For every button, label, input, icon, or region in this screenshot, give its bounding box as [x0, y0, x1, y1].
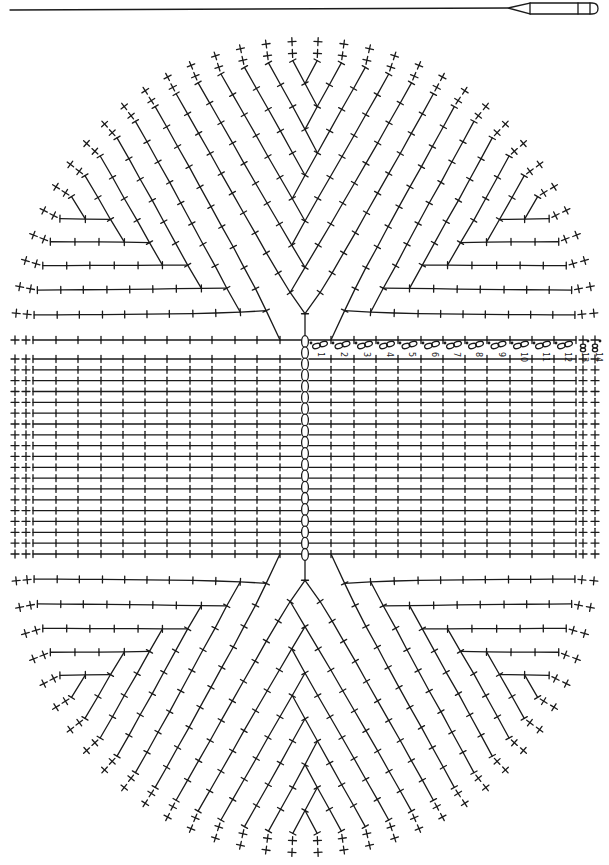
sc-stitch-stroke	[593, 577, 594, 585]
slip-stitch-dot	[444, 342, 447, 345]
hdc-stitch-post	[305, 765, 317, 788]
hdc-stitch-post	[268, 809, 280, 831]
hdc-stitch-post	[210, 720, 221, 740]
hdc-stitch-post	[255, 233, 266, 253]
hdc-stitch-post	[422, 94, 433, 114]
chain-stitch-oval	[592, 344, 597, 348]
round-marker-8: 8	[466, 340, 484, 357]
chain-stitch-oval	[302, 437, 309, 449]
round-number-label: 14	[594, 352, 603, 362]
hdc-stitch-post	[72, 197, 86, 220]
fan-round-13	[22, 49, 587, 344]
chain-stitch-oval	[302, 481, 309, 493]
chain-stitch-oval	[302, 392, 309, 404]
hdc-stitch-post	[330, 763, 342, 785]
round-marker-5: 5	[399, 340, 418, 357]
hdc-stitch-post	[443, 767, 454, 787]
hdc-stitch-post	[158, 712, 170, 733]
round-marker-3: 3	[355, 340, 373, 357]
hdc-stitch-post	[203, 244, 215, 266]
chain-stitch-oval	[319, 340, 328, 347]
hdc-stitch-post	[378, 123, 389, 143]
hdc-stitch-post	[446, 200, 458, 221]
hdc-stitch-post	[486, 177, 498, 198]
hdc-stitch-post	[345, 289, 356, 311]
round-marker-9: 9	[488, 340, 507, 357]
hdc-stitch-post	[432, 127, 443, 147]
hdc-stitch-post	[399, 687, 410, 707]
hdc-stitch-post	[318, 696, 330, 717]
hdc-stitch-post	[293, 810, 305, 833]
sc-stitch-stroke	[537, 726, 542, 732]
hdc-stitch-post	[500, 675, 513, 697]
sc-stitch-stroke	[237, 48, 245, 50]
hdc-stitch-post	[448, 629, 461, 652]
round-number-label: 3	[362, 352, 371, 357]
hdc-stitch-post	[525, 197, 538, 220]
hdc-stitch-post	[167, 127, 178, 147]
hdc-stitch-post	[331, 554, 345, 583]
chain-stitch-oval	[302, 470, 309, 482]
hdc-stitch-post	[305, 107, 317, 130]
sc-stitch-stroke	[578, 601, 579, 609]
hdc-stitch-post	[98, 198, 111, 220]
hdc-stitch-post	[279, 649, 291, 670]
hdc-stitch-post	[342, 88, 354, 109]
hdc-stitch-post	[113, 177, 125, 198]
hdc-stitch-post	[210, 153, 221, 173]
hdc-stitch-post	[232, 193, 243, 213]
hdc-stitch-post	[280, 696, 292, 717]
hdc-stitch-post	[293, 765, 305, 788]
hdc-stitch-post	[329, 63, 341, 85]
hook-handle	[530, 3, 598, 14]
sc-stitch-stroke	[455, 98, 462, 102]
hdc-stitch-post	[189, 167, 200, 187]
hdc-stitch-post	[329, 809, 341, 831]
hdc-stitch-post	[407, 223, 418, 244]
hdc-stitch-post	[292, 673, 305, 696]
hdc-stitch-post	[243, 661, 255, 681]
sc-stitch-stroke	[455, 791, 462, 795]
round-number-label: 6	[430, 352, 439, 357]
sc-stitch-stroke	[68, 726, 73, 732]
hdc-stitch-post	[377, 799, 388, 820]
hdc-stitch-post	[221, 751, 233, 771]
hdc-stitch-post	[292, 198, 305, 221]
hdc-stitch-post	[305, 810, 317, 833]
hdc-stitch-post	[345, 582, 371, 584]
hdc-stitch-post	[155, 767, 167, 787]
sc-stitch-stroke	[54, 704, 58, 711]
hdc-stitch-post	[290, 602, 305, 627]
hdc-stitch-post	[256, 289, 267, 311]
hdc-stitch-post	[244, 67, 256, 88]
hdc-stitch-post	[233, 731, 244, 751]
hdc-stitch-post	[389, 103, 400, 123]
hdc-stitch-post	[256, 785, 268, 806]
top-fan-rounds	[11, 38, 599, 344]
chain-stitch-oval	[364, 340, 373, 347]
hdc-stitch-post	[305, 153, 317, 175]
sc-stitch-stroke	[593, 309, 594, 317]
hdc-stitch-post	[137, 651, 149, 673]
hdc-stitch-post	[181, 671, 192, 691]
sc-stitch-stroke	[338, 55, 346, 56]
hdc-stitch-post	[280, 741, 292, 763]
sc-stitch-stroke	[239, 59, 247, 61]
hdc-stitch-post	[72, 675, 86, 698]
hdc-stitch-post	[129, 715, 140, 736]
hdc-stitch-post	[421, 727, 432, 747]
hdc-stitch-post	[117, 735, 129, 756]
crochet-hook-icon	[10, 3, 598, 14]
hdc-stitch-post	[100, 717, 112, 738]
hdc-stitch-post	[330, 109, 342, 131]
sc-stitch-stroke	[63, 698, 67, 705]
sc-stitch-stroke	[19, 603, 20, 611]
hdc-stitch-post	[396, 628, 407, 650]
chain-stitch-oval	[302, 369, 309, 381]
hdc-stitch-post	[434, 222, 446, 243]
hdc-stitch-post	[452, 142, 463, 162]
hdc-stitch-post	[221, 799, 233, 820]
crochet-chart-canvas: 1234567891011121314	[0, 0, 609, 865]
hdc-stitch-post	[411, 114, 422, 134]
fan-round-11	[56, 551, 554, 813]
